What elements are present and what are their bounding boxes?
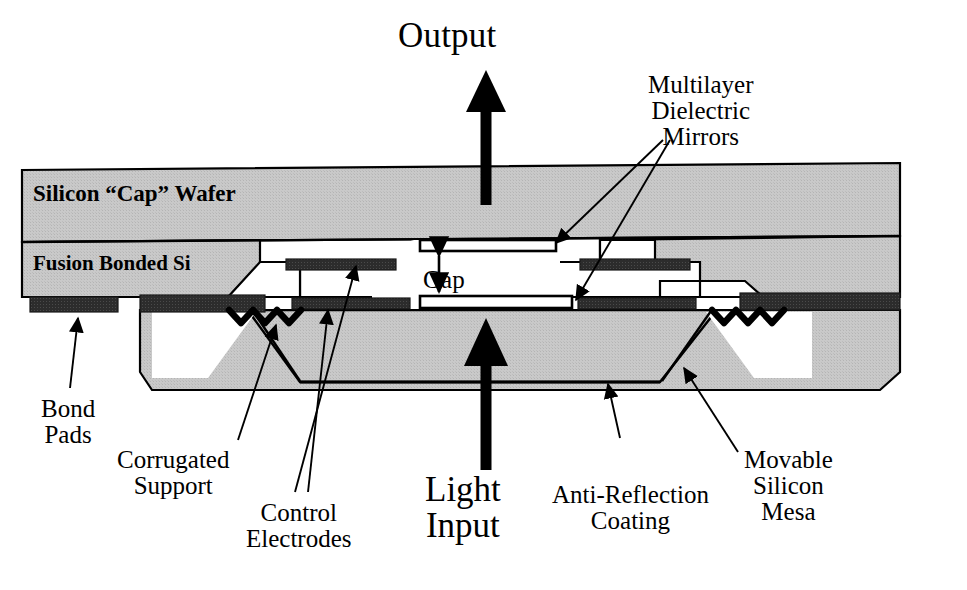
silicon-cap-wafer-label: Silicon “Cap” Wafer [33, 182, 236, 206]
fusion-bonded-si-label: Fusion Bonded Si [33, 253, 191, 275]
corrugated-support-label: Corrugated Support [117, 447, 229, 499]
light-input-label: Light Input [425, 472, 501, 545]
top-mirror [420, 240, 556, 251]
movable-silicon-mesa-label: Movable Silicon Mesa [744, 447, 833, 525]
bond-pads-label: Bond Pads [41, 396, 95, 448]
anti-reflection-coating-label: Anti-Reflection Coating [552, 482, 709, 534]
output-label: Output [398, 18, 496, 54]
bottom-mirror [420, 296, 572, 308]
multilayer-dielectric-mirrors-label: Multilayer Dielectric Mirrors [648, 72, 754, 150]
fabry-perot-modulator-figure: Output Multilayer Dielectric Mirrors Sil… [0, 0, 967, 590]
control-electrodes-label: Control Electrodes [246, 500, 352, 552]
gap-label: Gap [423, 267, 465, 293]
